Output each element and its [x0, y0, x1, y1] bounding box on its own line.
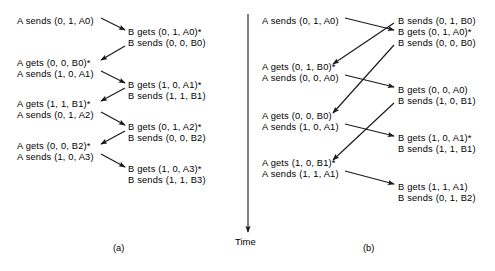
panel-caption-b: (b) [363, 243, 374, 254]
event-label: B gets (1, 0, A1)* [398, 133, 472, 144]
message-arrow [101, 154, 125, 167]
message-arrow [345, 75, 394, 87]
event-label: A gets (0, 0, B0) [262, 111, 332, 122]
message-arrow [101, 46, 125, 60]
event-label: B gets (0, 0, A0) [398, 85, 468, 96]
message-arrow [345, 171, 394, 184]
event-label: A gets (0, 1, B0)* [262, 62, 336, 73]
panel-caption-a: (a) [113, 243, 124, 254]
event-label: A sends (0, 1, A0) [262, 16, 339, 27]
message-arrow [345, 124, 394, 136]
event-label: B sends (1, 1, B1) [128, 91, 206, 102]
event-label: B sends (0, 0, B0) [128, 38, 206, 49]
message-arrow [101, 131, 125, 144]
event-label: A sends (1, 0, A3) [17, 152, 94, 163]
event-label: B sends (1, 1, B1) [398, 144, 476, 155]
event-label: B sends (1, 0, B1) [398, 96, 476, 107]
event-label: B gets (1, 0, A3)* [128, 164, 202, 175]
event-label: A sends (0, 1, A2) [17, 110, 94, 121]
message-arrow [345, 18, 394, 30]
message-arrow [101, 88, 125, 101]
event-label: A sends (0, 1, A0) [17, 16, 94, 27]
event-label: B sends (1, 1, B3) [128, 175, 206, 186]
event-label: A gets (1, 1, B1)* [17, 99, 91, 110]
event-label: A gets (0, 0, B0)* [17, 58, 91, 69]
event-label: B gets (0, 1, A0)* [128, 27, 202, 38]
message-arrow [333, 103, 394, 160]
event-label: B sends (0, 1, B0) [398, 16, 476, 27]
event-label: A sends (1, 1, A1) [262, 169, 339, 180]
message-arrow [101, 112, 125, 125]
event-label: A sends (1, 0, A1) [17, 69, 94, 80]
time-axis-label: Time [235, 236, 256, 247]
event-label: B sends (0, 0, B0) [398, 38, 476, 49]
message-arrow [101, 18, 125, 30]
event-label: B gets (1, 0, A1)* [128, 80, 202, 91]
event-label: B gets (0, 1, A0)* [398, 27, 472, 38]
event-label: A sends (0, 0, A0) [262, 73, 339, 84]
message-arrow [101, 71, 125, 83]
event-label: B gets (1, 1, A1) [398, 182, 468, 193]
event-label: A gets (0, 0, B2)* [17, 141, 91, 152]
event-label: B sends (0, 1, B2) [398, 193, 476, 204]
event-label: A sends (1, 0, A1) [262, 122, 339, 133]
message-arrow [333, 45, 394, 113]
event-label: B gets (0, 1, A2)* [128, 122, 202, 133]
figure-canvas: A sends (0, 1, A0)B gets (0, 1, A0)*B se… [0, 0, 495, 271]
event-label: B sends (0, 0, B2) [128, 133, 206, 144]
event-label: A gets (1, 0, B1)* [262, 158, 336, 169]
message-arrow [333, 23, 394, 64]
